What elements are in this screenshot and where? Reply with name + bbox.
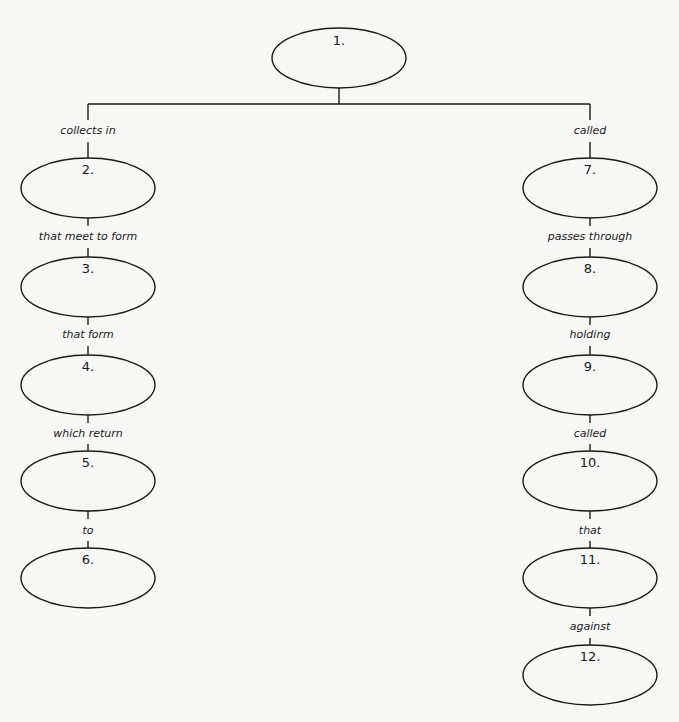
node-11-label: 11. bbox=[580, 552, 601, 567]
node-12-label: 12. bbox=[580, 649, 601, 664]
link-label-collects-in: collects in bbox=[60, 124, 115, 137]
link-label-that-meet-to-form: that meet to form bbox=[39, 230, 137, 243]
node-1: 1. bbox=[272, 28, 406, 88]
node-3-label: 3. bbox=[82, 261, 94, 276]
node-12: 12. bbox=[523, 645, 657, 705]
node-7-label: 7. bbox=[584, 162, 596, 177]
node-10-label: 10. bbox=[580, 455, 601, 470]
link-label-against: against bbox=[570, 620, 611, 633]
link-label-called-2: called bbox=[574, 427, 608, 440]
node-7: 7. bbox=[523, 158, 657, 218]
node-4: 4. bbox=[21, 355, 155, 415]
node-1-label: 1. bbox=[333, 33, 345, 48]
concept-map: 1. collects in 2. that meet to form 3. t… bbox=[0, 0, 679, 722]
node-9-label: 9. bbox=[584, 359, 596, 374]
node-8: 8. bbox=[523, 257, 657, 317]
node-2: 2. bbox=[21, 158, 155, 218]
link-label-passes-through: passes through bbox=[547, 230, 633, 243]
node-3: 3. bbox=[21, 257, 155, 317]
node-6-label: 6. bbox=[82, 552, 94, 567]
link-label-that: that bbox=[579, 524, 602, 537]
node-5: 5. bbox=[21, 451, 155, 511]
node-11: 11. bbox=[523, 548, 657, 608]
node-8-label: 8. bbox=[584, 261, 596, 276]
link-label-which-return: which return bbox=[53, 427, 123, 440]
node-4-label: 4. bbox=[82, 359, 94, 374]
link-label-that-form: that form bbox=[62, 328, 114, 341]
node-5-label: 5. bbox=[82, 455, 94, 470]
node-6: 6. bbox=[21, 548, 155, 608]
node-9: 9. bbox=[523, 355, 657, 415]
node-10: 10. bbox=[523, 451, 657, 511]
node-2-label: 2. bbox=[82, 162, 94, 177]
link-label-called: called bbox=[574, 124, 608, 137]
link-label-to: to bbox=[82, 524, 93, 537]
link-label-holding: holding bbox=[570, 328, 611, 341]
